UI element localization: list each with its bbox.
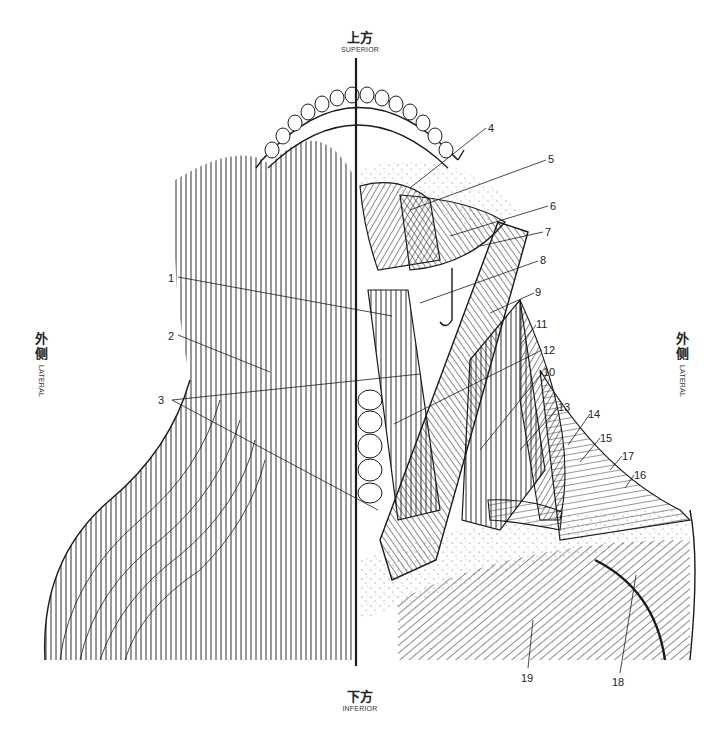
callout-12: 12	[543, 344, 555, 356]
platysma-left	[45, 141, 356, 660]
anatomy-figure: 上方 SUPERIOR 下方 INFERIOR 外 侧 LATERAL 外 侧 …	[0, 0, 722, 747]
deep-muscles-right	[360, 183, 695, 660]
callout-11: 11	[536, 318, 547, 330]
orientation-lateral-left: 外 侧 LATERAL	[31, 331, 51, 397]
orientation-superior: 上方 SUPERIOR	[322, 30, 398, 54]
inferior-en: INFERIOR	[322, 704, 398, 713]
orientation-inferior: 下方 INFERIOR	[322, 689, 398, 713]
callout-7: 7	[545, 226, 551, 238]
callout-8: 8	[540, 254, 546, 266]
lateral-right-en: LATERAL	[678, 365, 687, 397]
callout-5: 5	[548, 153, 554, 165]
lateral-left-zh-1: 外	[31, 331, 51, 346]
trachea	[358, 390, 382, 503]
callout-10: 10	[543, 366, 555, 378]
lateral-left-en: LATERAL	[37, 365, 46, 397]
neck-muscle-illustration	[0, 0, 722, 747]
lateral-right-zh-2: 侧	[672, 346, 692, 361]
callout-14: 14	[588, 408, 600, 420]
callout-19: 19	[521, 672, 533, 684]
inferior-zh: 下方	[322, 689, 398, 704]
callout-9: 9	[535, 286, 541, 298]
callout-2: 2	[168, 330, 174, 342]
orientation-lateral-right: 外 侧 LATERAL	[672, 331, 692, 397]
callout-6: 6	[550, 200, 556, 212]
superior-en: SUPERIOR	[322, 45, 398, 54]
callout-17: 17	[622, 450, 634, 462]
callout-13: 13	[558, 401, 570, 413]
lateral-left-zh-2: 侧	[31, 346, 51, 361]
superior-zh: 上方	[322, 30, 398, 45]
callout-3: 3	[158, 394, 164, 406]
callout-16: 16	[634, 469, 646, 481]
callout-4: 4	[488, 122, 494, 134]
callout-15: 15	[600, 432, 612, 444]
callout-18: 18	[612, 676, 624, 688]
callout-1: 1	[168, 272, 174, 284]
lateral-right-zh-1: 外	[672, 331, 692, 346]
